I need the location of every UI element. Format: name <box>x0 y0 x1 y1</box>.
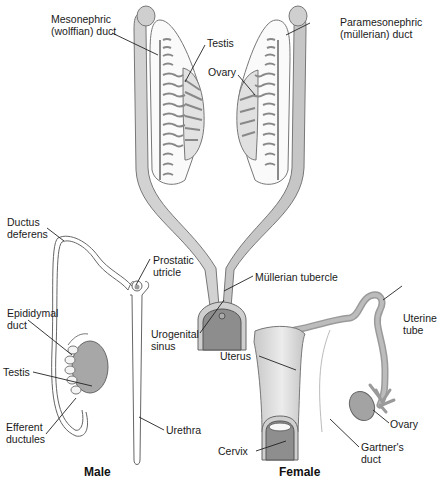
label-prostatic-utricle: Prostatic utricle <box>153 254 194 278</box>
female-structures <box>254 295 394 460</box>
label-gartners-duct: Gartner's duct <box>361 441 404 465</box>
prostatic-utricle-dot <box>135 285 140 290</box>
panel-title-female: Female <box>279 465 320 479</box>
label-mullerian-tubercle: Müllerian tubercle <box>255 271 338 283</box>
cervix-os <box>269 423 291 431</box>
label-ovary-top: Ovary <box>208 66 236 78</box>
label-ductus-deferens: Ductus deferens <box>7 216 48 240</box>
right-duct-knob <box>289 6 307 26</box>
panel-title-male: Male <box>84 465 111 479</box>
label-urogenital-sinus: Urogenital sinus <box>151 328 199 352</box>
gartners-duct-line <box>320 330 330 432</box>
label-testis-bottom: Testis <box>3 366 30 378</box>
label-uterus: Uterus <box>220 350 251 362</box>
label-testis-top: Testis <box>207 37 234 49</box>
right-ovary-lobe <box>237 70 258 160</box>
label-epididymal-duct: Epididymal duct <box>7 307 58 331</box>
label-uterine-tube: Uterine tube <box>403 312 437 336</box>
left-duct-knob <box>137 6 155 26</box>
mullerian-tubercle-mark <box>219 313 225 319</box>
label-paramesonephric-duct: Paramesonephric (müllerian) duct <box>340 16 422 40</box>
label-mesonephric-duct: Mesonephric (wolffian) duct <box>51 13 116 37</box>
label-ovary-bottom: Ovary <box>390 418 418 430</box>
label-cervix: Cervix <box>218 445 248 457</box>
female-ovary <box>345 387 379 424</box>
label-urethra: Urethra <box>166 424 201 436</box>
label-efferent-ductules: Efferent ductules <box>6 421 45 445</box>
